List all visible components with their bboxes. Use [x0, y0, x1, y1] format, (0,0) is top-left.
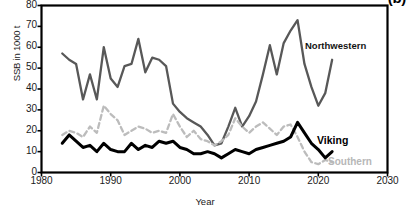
- series-label-northwestern: Northwestern: [305, 40, 366, 51]
- series-label-southern: Southern: [328, 156, 372, 167]
- plot-canvas: [0, 0, 410, 214]
- series-line-viking: [62, 122, 332, 157]
- series-label-viking: Viking: [317, 134, 348, 146]
- chart-figure: (b) SSB in 1000 t Year 01020304050607080…: [0, 0, 410, 214]
